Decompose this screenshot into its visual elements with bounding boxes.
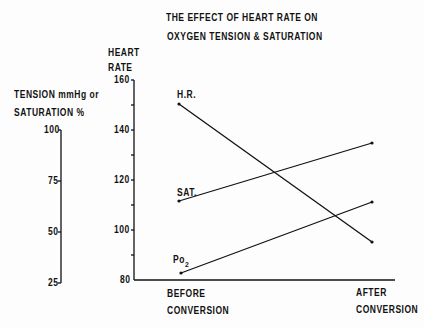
- x-label-before-line2: CONVERSION: [167, 305, 229, 317]
- left-axis-tick-100: 100: [44, 124, 60, 136]
- hr-axis-label-line1: HEART: [108, 47, 140, 59]
- x-label-after-line2: CONVERSION: [356, 304, 418, 316]
- hr-axis-tick-80: 80: [120, 274, 130, 286]
- chart-title-line2: OXYGEN TENSION & SATURATION: [167, 31, 323, 43]
- series-label-po2-subscript: 2: [185, 260, 189, 269]
- x-label-after-line1: AFTER: [356, 287, 387, 299]
- left-axis-label-line1: TENSION mmHg or: [14, 89, 99, 101]
- series-po2-line: [179, 200, 373, 274]
- left-axis-tick-50: 50: [48, 226, 58, 238]
- hr-axis-tick-100: 100: [114, 224, 130, 236]
- series-hr-line: [177, 102, 373, 243]
- left-axis: [58, 130, 61, 283]
- hr-axis-tick-120: 120: [114, 174, 130, 186]
- chart-title-line1: THE EFFECT OF HEART RATE ON: [166, 12, 318, 24]
- x-label-before-line1: BEFORE: [167, 288, 205, 300]
- hr-axis-tick-140: 140: [114, 124, 130, 136]
- series-label-po2: Po2: [173, 254, 189, 267]
- hr-axis-label-line2: RATE: [108, 62, 133, 74]
- left-axis-tick-75: 75: [48, 175, 58, 187]
- series-label-po2-text: Po: [173, 254, 185, 265]
- hr-axis-tick-160: 160: [114, 74, 130, 86]
- left-axis-label-line2: SATURATION %: [14, 107, 84, 119]
- series-sat-line: [177, 141, 373, 202]
- series-label-hr: H.R.: [177, 89, 196, 101]
- series-label-sat: SAT.: [177, 187, 197, 199]
- heart-rate-axis: [131, 80, 134, 280]
- chart-canvas: [0, 0, 424, 328]
- left-axis-tick-25: 25: [48, 277, 58, 289]
